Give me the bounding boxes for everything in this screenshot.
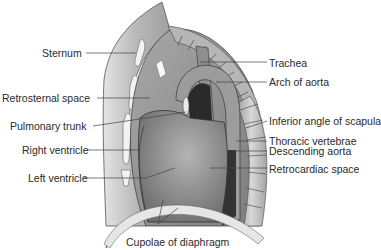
label-inferior-angle-of-scapula: Inferior angle of scapula	[269, 115, 381, 127]
label-left-ventricle: Left ventricle	[28, 172, 88, 184]
label-sternum: Sternum	[42, 47, 82, 59]
label-right-ventricle: Right ventricle	[22, 144, 89, 156]
label-retrocardiac-space: Retrocardiac space	[269, 163, 359, 175]
label-retrosternal-space: Retrosternal space	[2, 92, 90, 104]
label-descending-aorta: Descending aorta	[269, 145, 351, 157]
label-trachea: Trachea	[269, 57, 307, 69]
label-cupolae-of-diaphragm: Cupolae of diaphragm	[126, 236, 229, 248]
label-pulmonary-trunk: Pulmonary trunk	[10, 120, 86, 132]
label-arch-of-aorta: Arch of aorta	[269, 76, 329, 88]
